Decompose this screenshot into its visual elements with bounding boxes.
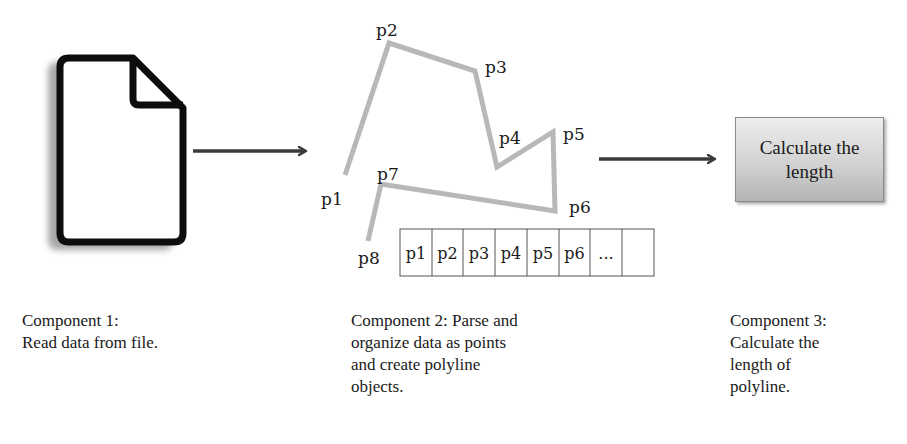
array-cell: p3 [469,244,489,263]
point-label-p3: p3 [485,57,507,77]
point-array-cells: p1 p2 p3 p4 p5 p6 ... [406,244,614,263]
point-label-p2: p2 [376,20,398,40]
array-cell: p2 [437,244,457,263]
array-cell: p1 [406,244,426,263]
point-label-p5: p5 [563,124,585,144]
calculate-length-box: Calculate the length [735,117,884,202]
array-cell: p4 [501,244,521,263]
polyline-graphic [345,43,555,241]
point-label-p6: p6 [569,197,591,217]
calculate-length-label: Calculate the length [744,136,875,184]
component-1-caption: Component 1: Read data from file. [22,310,242,354]
point-label-p7: p7 [377,164,399,184]
array-cell: p5 [533,244,553,263]
array-cell: p6 [564,244,584,263]
array-cell-ellipsis: ... [598,244,613,263]
point-label-p1: p1 [321,189,343,209]
document-file-icon [48,58,183,250]
point-label-p8: p8 [358,248,380,268]
point-label-p4: p4 [499,128,521,148]
component-2-caption: Component 2: Parse and organize data as … [351,310,611,398]
component-3-caption: Component 3: Calculate the length of pol… [730,310,890,398]
